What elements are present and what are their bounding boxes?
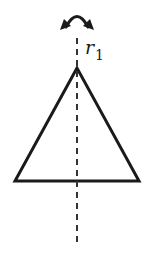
axis-label-subscript: 1 <box>95 47 104 63</box>
axis-label-main: r <box>85 36 94 58</box>
reflection-diagram <box>0 0 151 253</box>
axis-label: r1 <box>85 38 103 57</box>
curved-double-arrow-icon <box>60 17 94 31</box>
